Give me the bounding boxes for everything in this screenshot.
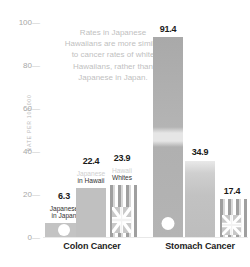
y-tick-dash: — [32,233,40,242]
y-tick-80: 80— [0,61,40,70]
y-tick-20-label: 20 [23,190,32,199]
bar-slot: 22.4 Japanese in Hawaii [76,18,106,237]
hawaii-flag-icon [217,199,247,237]
y-tick-dash: — [32,18,40,27]
category-label-stomach-cancer: Stomach Cancer [165,241,235,251]
bar-series-label: Japanese in Japan [50,205,79,220]
hawaii-flag-icon [107,185,137,237]
japan-flag-icon [153,37,183,237]
series-label-line2: in Hawaii [78,177,105,184]
y-tick-40-label: 40 [23,147,32,156]
bar-value-label: 23.9 [114,153,131,163]
y-tick-0: 0— [0,233,40,242]
y-tick-100-label: 100 [19,18,32,27]
y-tick-60: 60— [0,104,40,113]
plain-gray-fill-icon [185,161,215,238]
bar-hawaii-whites-stomach[interactable] [217,199,247,237]
y-tick-100: 100— [0,18,40,27]
bar-slot: 23.9 Hawaii Whites [107,18,137,237]
bar-value-label: 17.4 [224,186,241,196]
bar-series-label: Japanese in Hawaii [77,170,106,185]
bar-slot: 34.9 [185,18,215,237]
bar-japanese-in-hawaii-stomach[interactable] [185,161,215,238]
series-label-line1: Japanese [77,170,106,177]
bar-group-stomach-cancer: 91.4 34.9 [153,18,249,237]
y-tick-dash: — [32,61,40,70]
y-tick-dash: — [32,104,40,113]
series-label-line1: Japanese [50,205,79,212]
bar-japanese-in-japan-stomach[interactable] [153,37,183,237]
y-tick-80-label: 80 [23,61,32,70]
x-axis-baseline [43,237,248,238]
bar-group-colon-cancer: 6.3 Japanese in Japan 22.4 Japanese in H… [43,18,139,237]
bar-value-label: 6.3 [58,191,70,201]
bar-slot: 91.4 [153,18,183,237]
y-tick-40: 40— [0,147,40,156]
plot-area: 6.3 Japanese in Japan 22.4 Japanese in H… [43,18,248,237]
y-tick-20: 20— [0,190,40,199]
series-label-line1: Hawaii [112,167,132,174]
y-tick-dash: — [32,147,40,156]
bar-series-label: Hawaii Whites [112,167,132,182]
bar-hawaii-whites-colon[interactable] [107,185,137,237]
cancer-rate-bar-chart: RATE PER 100,000 100— 80— 60— 40— 20— 0—… [0,0,250,267]
bar-value-label: 34.9 [192,147,209,157]
plain-gray-fill-icon [76,188,106,237]
bar-value-label: 22.4 [83,156,100,166]
bar-value-label: 91.4 [160,24,177,34]
y-tick-dash: — [32,190,40,199]
series-label-line2: in Japan [52,212,77,219]
category-label-colon-cancer: Colon Cancer [63,241,120,251]
series-label-line2: Whites [112,174,132,181]
bar-slot: 17.4 [217,18,247,237]
y-tick-60-label: 60 [23,104,32,113]
bar-japanese-in-hawaii-colon[interactable] [76,188,106,237]
